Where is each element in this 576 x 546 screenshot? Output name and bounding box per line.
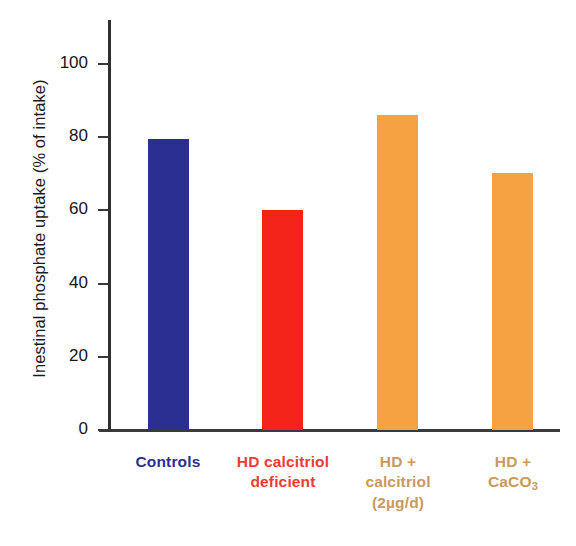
bar-controls xyxy=(148,139,189,430)
x-label-hd-plus-calcitriol-line3: (2µg/d) xyxy=(318,493,478,513)
x-label-hd-plus-caco3-subscript: 3 xyxy=(532,480,538,492)
bar-chart-figure: Inestinal phosphate uptake (% of intake)… xyxy=(0,0,576,546)
x-label-hd-plus-caco3-formula: CaCO xyxy=(488,473,532,490)
x-label-hd-plus-caco3: HD + CaCO3 xyxy=(433,452,576,493)
bars-layer xyxy=(0,0,576,430)
bar-hd-plus-caco3 xyxy=(492,173,533,430)
x-label-hd-plus-caco3-line1: HD + xyxy=(433,452,576,472)
bar-hd-calcitriol-deficient xyxy=(262,210,303,430)
x-label-hd-plus-caco3-line2: CaCO3 xyxy=(433,472,576,492)
bar-hd-plus-calcitriol xyxy=(377,115,418,430)
